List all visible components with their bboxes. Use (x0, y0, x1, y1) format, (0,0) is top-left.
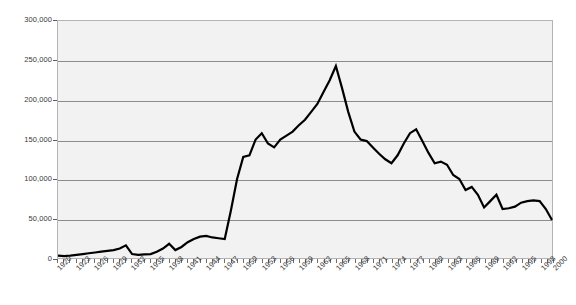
x-tick-label: 1977 (408, 254, 426, 272)
x-tick-label: 1920 (55, 254, 73, 272)
x-tick-label: 1965 (334, 254, 352, 272)
line-chart: 050,000100,000150,000200,000250,000300,0… (0, 0, 576, 305)
y-tick-mark (53, 100, 57, 101)
x-tick-label: 1995 (520, 254, 538, 272)
x-tick-label: 1968 (353, 254, 371, 272)
x-tick-label: 1941 (185, 254, 203, 272)
y-tick-mark (53, 219, 57, 220)
x-tick-label: 1980 (427, 254, 445, 272)
x-tick-label: 1923 (74, 254, 92, 272)
x-axis: 1920192319261929193219351938194119441947… (0, 0, 576, 305)
y-tick-mark (53, 60, 57, 61)
x-tick-label: 1983 (446, 254, 464, 272)
x-tick-label: 1938 (167, 254, 185, 272)
y-tick-mark (53, 259, 57, 260)
x-tick-label: 1950 (241, 254, 259, 272)
y-tick-mark (53, 179, 57, 180)
x-tick-label: 1962 (315, 254, 333, 272)
x-tick-label: 1989 (483, 254, 501, 272)
y-tick-mark (53, 20, 57, 21)
x-tick-label: 1929 (111, 254, 129, 272)
x-tick-label: 1992 (501, 254, 519, 272)
x-tick-label: 1953 (260, 254, 278, 272)
x-tick-label: 1956 (278, 254, 296, 272)
x-tick-label: 1947 (222, 254, 240, 272)
x-tick-label: 1974 (390, 254, 408, 272)
x-tick-label: 1959 (297, 254, 315, 272)
x-tick-label: 1944 (204, 254, 222, 272)
x-tick-label: 1986 (464, 254, 482, 272)
y-tick-mark (53, 140, 57, 141)
x-tick-label: 1971 (371, 254, 389, 272)
x-tick-label: 1932 (129, 254, 147, 272)
x-tick-label: 1926 (92, 254, 110, 272)
x-tick-label: 1935 (148, 254, 166, 272)
